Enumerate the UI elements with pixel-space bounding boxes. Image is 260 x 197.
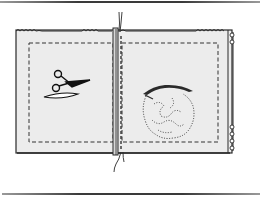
sewing-diagram — [0, 0, 260, 197]
fabric-panel — [16, 30, 234, 154]
top-rule — [0, 1, 260, 3]
bottom-rule — [2, 193, 260, 195]
